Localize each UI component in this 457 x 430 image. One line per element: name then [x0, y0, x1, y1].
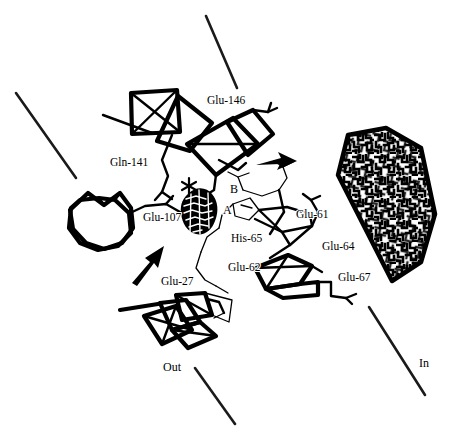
site-label-group: A B	[223, 182, 238, 217]
membrane-line-top-left	[16, 93, 76, 178]
site-label-b: B	[230, 182, 238, 196]
orientation-label-out: Out	[163, 360, 182, 374]
his65-ring-bond	[241, 205, 252, 208]
helix-tail	[120, 304, 158, 310]
residue-label-gln-141: Gln-141	[110, 156, 149, 168]
helix-wheel-spoke	[69, 228, 73, 229]
membrane-line-bottom-right	[369, 307, 425, 395]
helix-turn	[266, 282, 318, 298]
backbone-branch	[243, 190, 279, 196]
glu67-carboxyl	[346, 298, 352, 304]
bottom-left-helix-cluster	[120, 293, 232, 348]
glu146-sidechain	[253, 108, 277, 112]
glu67-sidechain	[318, 282, 346, 298]
residue-label-glu-146: Glu-146	[207, 94, 246, 106]
arrow-right	[256, 152, 297, 170]
orientation-label-in: In	[419, 356, 429, 370]
backbone-branch	[238, 173, 249, 177]
residue-label-glu-107: Glu-107	[143, 211, 182, 223]
glu61-sidechain	[279, 167, 287, 190]
residue-label-glu-27: Glu-27	[161, 275, 194, 287]
residue-label-glu-62: Glu-62	[228, 261, 261, 273]
retinal-density-blob	[181, 188, 218, 234]
helix-wheel-spoke	[70, 208, 71, 210]
helix-turn	[187, 118, 258, 175]
residue-label-glu-64: Glu-64	[322, 240, 355, 252]
residue-bond	[255, 219, 312, 232]
site-label-a: A	[223, 203, 232, 217]
backbone-segment	[103, 115, 152, 133]
glu64-carboxyl	[311, 196, 320, 200]
glu64-carboxyl	[303, 194, 311, 200]
membrane-line-top-right	[206, 16, 237, 88]
glu62-terminal	[216, 286, 228, 293]
orientation-label-group: Out In	[163, 356, 429, 374]
gln141-terminal	[155, 192, 162, 200]
helix-connector	[312, 266, 322, 272]
textured-hexagon-region	[330, 120, 445, 290]
residue-label-glu-61: Glu-61	[296, 208, 329, 220]
his65-imidazole-ring	[233, 198, 259, 220]
molecular-structure-figure: Glu-146 Gln-141 Glu-107 Glu-61 His-65 Gl…	[0, 0, 457, 430]
arrow-up-right	[132, 246, 164, 286]
figure-canvas: Glu-146 Gln-141 Glu-107 Glu-61 His-65 Gl…	[0, 0, 457, 430]
residue-label-glu-67: Glu-67	[338, 271, 371, 283]
residue-label-his-65: His-65	[231, 232, 263, 244]
membrane-line-bottom-left	[195, 368, 235, 424]
glu67-carboxyl	[346, 294, 356, 298]
glu62-chain	[196, 252, 216, 286]
helix-turn	[157, 96, 212, 151]
